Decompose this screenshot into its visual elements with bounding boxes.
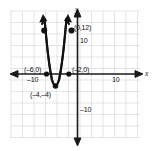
x-axis-tick-negative-10: –10 — [27, 76, 38, 83]
y-axis-tick-10: 10 — [80, 37, 87, 44]
marker-right-root — [66, 71, 71, 76]
y-axis-arrow-down — [74, 138, 81, 146]
right-branch-arrow — [64, 14, 72, 23]
y-axis-label: y — [75, 5, 78, 14]
point-label-vertex: (–4,–4) — [30, 91, 51, 98]
x-axis-arrow-right — [135, 71, 143, 78]
marker-vertex — [53, 83, 59, 89]
marker-left-upper — [41, 28, 47, 34]
left-branch-arrow — [39, 14, 47, 23]
x-axis-tick-10: 10 — [112, 76, 119, 83]
point-label-y-intercept: (0,12) — [74, 24, 91, 31]
point-label-right-root: (–2,0) — [72, 66, 89, 73]
x-axis-label: x — [145, 69, 148, 78]
point-label-left-root: (–6,0) — [24, 66, 41, 73]
parabola-coordinate-graph: y x 10 –10 10 –10 (0,12) (–6,0) (–2,0) (… — [0, 0, 153, 151]
marker-left-root — [44, 71, 49, 76]
curve-arrowheads — [39, 14, 72, 23]
y-axis-tick-negative-10: –10 — [80, 106, 91, 113]
coordinate-plane-svg — [0, 0, 153, 151]
